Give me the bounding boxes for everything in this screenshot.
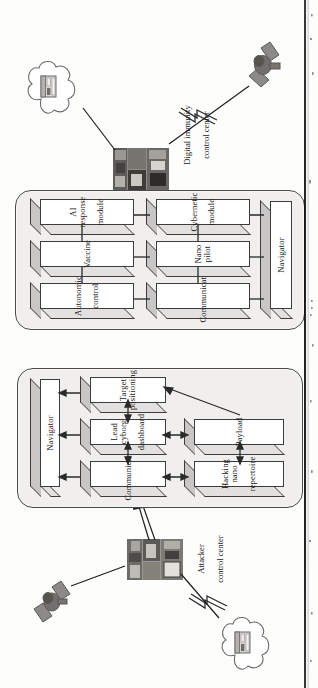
panel-attacker-control-center: Attacker control center Navigator (9, 362, 309, 678)
immunity-connectors (16, 191, 304, 329)
caption-line-2: control center (216, 526, 226, 592)
page-edge-line (304, 0, 306, 688)
immunity-container: Navigator Communicator Nano pilot (15, 190, 305, 330)
panel-caption-attacker: Attacker control center (187, 526, 235, 592)
panel-caption-immunity: Digital immunity control center (173, 100, 221, 170)
scanned-page: Attacker control center Navigator (0, 0, 318, 688)
figure-stage: Attacker control center Navigator (9, 0, 309, 688)
attacker-arrows (18, 369, 302, 507)
panel-digital-immunity-control-center: Digital immunity control center Navigato… (9, 14, 309, 330)
caption-line-1: Digital immunity (183, 100, 193, 170)
attacker-container: Navigator Communicator Lea (17, 368, 303, 508)
caption-line-2: control center (202, 100, 212, 170)
caption-line-1: Attacker (197, 526, 207, 592)
page-edge-shadow (306, 0, 309, 688)
